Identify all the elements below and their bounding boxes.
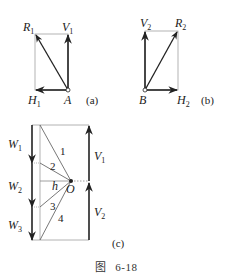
label-ray-2: 2 <box>50 160 56 172</box>
label-w2: W2 <box>8 179 22 195</box>
label-h1: H1 <box>27 93 41 109</box>
label-v2: V2 <box>140 16 151 32</box>
point-b-icon <box>143 88 147 92</box>
label-r1: R1 <box>22 20 34 36</box>
label-w3: W3 <box>8 218 22 234</box>
label-v1-reaction: V1 <box>94 149 105 165</box>
label-ray-3: 3 <box>50 200 56 212</box>
caption-number: 6-18 <box>115 261 137 273</box>
panel-a-tag: (a) <box>86 94 99 107</box>
caption-prefix: 图 <box>95 261 107 273</box>
panel-c-tag: (c) <box>112 237 125 250</box>
label-v1: V1 <box>62 20 73 36</box>
panel-c: W1 W2 W3 1 2 3 4 h O V1 V2 (c) <box>8 125 125 250</box>
label-v2-reaction: V2 <box>94 205 105 221</box>
panel-b-tag: (b) <box>201 94 214 107</box>
panel-a: R1 V1 H1 A (a) <box>22 20 99 109</box>
label-ray-4: 4 <box>58 212 64 224</box>
point-a-icon <box>66 88 70 92</box>
ray-1 <box>40 125 71 181</box>
figure-canvas: R1 V1 H1 A (a) V2 R2 B H2 (b) <box>0 0 232 279</box>
panel-b: V2 R2 B H2 (b) <box>139 16 214 109</box>
label-r2: R2 <box>174 16 186 32</box>
label-point-b: B <box>139 93 147 107</box>
label-h2: H2 <box>176 93 190 109</box>
label-h: h <box>52 179 58 193</box>
label-point-a: A <box>63 93 72 107</box>
label-pole-o: O <box>66 182 75 196</box>
label-ray-1: 1 <box>60 145 66 157</box>
label-w1: W1 <box>8 137 22 153</box>
resultant-r1-arrow <box>36 35 68 90</box>
figure-caption: 图 6-18 <box>0 258 232 274</box>
resultant-r2-arrow <box>145 32 177 90</box>
